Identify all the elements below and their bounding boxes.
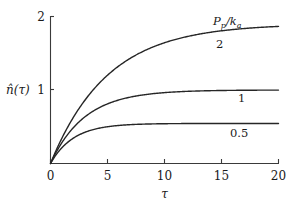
x-tick-label-0: 0 [47, 169, 55, 183]
x-axis-title: τ [161, 187, 168, 201]
legend-denominator-sub: a [237, 21, 242, 30]
chart-svg: 2 1 n̂(τ) 0 5 10 15 20 τ Pp/ka 2 1 0.5 [0, 0, 291, 205]
x-tick-label-10: 10 [157, 169, 172, 183]
x-tick-label-15: 15 [214, 169, 229, 183]
y-axis-title: n̂(τ) [6, 83, 30, 97]
legend-title-text: Pp/ka [212, 14, 242, 30]
legend-numerator-base: P [212, 14, 221, 28]
chart-container: 2 1 n̂(τ) 0 5 10 15 20 τ Pp/ka 2 1 0.5 [0, 0, 291, 205]
y-axis-title-text: n̂(τ) [6, 83, 30, 97]
curve-label-bottom: 0.5 [230, 126, 248, 140]
x-tick-label-5: 5 [104, 169, 112, 183]
y-tick-label-1: 1 [37, 83, 45, 97]
curve-label-top: 2 [216, 37, 223, 51]
x-tick-label-20: 20 [271, 169, 286, 183]
legend-denominator-base: k [230, 14, 237, 28]
y-tick-label-2: 2 [37, 10, 45, 24]
legend-title: Pp/ka [212, 14, 242, 30]
curve-label-middle: 1 [238, 91, 245, 105]
